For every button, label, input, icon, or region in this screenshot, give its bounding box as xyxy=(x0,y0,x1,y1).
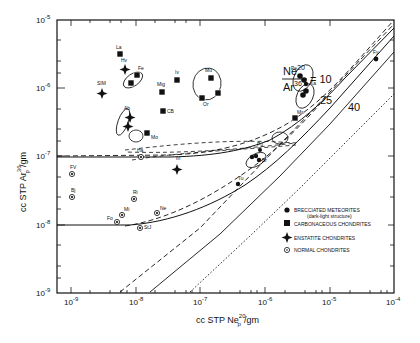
svg-text:Ha: Ha xyxy=(137,147,144,153)
point-Br-2 xyxy=(254,154,258,158)
svg-text:Mi: Mi xyxy=(124,206,129,212)
y-tick-labels: 10-5 10-6 10-7 10-8 10-9 xyxy=(36,14,51,298)
point-Br-3 xyxy=(257,158,261,162)
point-Hv xyxy=(120,64,131,75)
point-SIM xyxy=(97,88,108,99)
svg-text:La: La xyxy=(116,44,122,50)
point-Fe-2 xyxy=(128,80,134,86)
point-Mu-2 xyxy=(215,90,221,96)
point-In xyxy=(172,164,183,175)
svg-text:Tu: Tu xyxy=(238,175,244,181)
point-Mo xyxy=(144,130,150,136)
point-Br-1 xyxy=(250,155,254,159)
point-Fy xyxy=(374,57,379,62)
series-brecciated xyxy=(236,57,379,187)
point-Ms xyxy=(292,115,298,121)
svg-text:10-5: 10-5 xyxy=(36,14,51,25)
legend-carbonaceous-icon xyxy=(284,220,290,226)
point-Mu xyxy=(208,75,214,81)
svg-text:Hv: Hv xyxy=(121,57,128,63)
svg-text:Pu: Pu xyxy=(257,141,263,147)
point-Ka xyxy=(304,82,308,86)
point-Ka-3 xyxy=(303,88,309,94)
y-axis-ticks xyxy=(57,40,394,278)
svg-text:10-7: 10-7 xyxy=(36,150,51,161)
svg-text:25: 25 xyxy=(320,94,332,106)
legend-brecciated-icon xyxy=(284,207,289,212)
svg-text:10-9: 10-9 xyxy=(36,287,51,298)
svg-text:= 10: = 10 xyxy=(310,73,332,85)
series-carbonaceous xyxy=(117,51,298,136)
svg-text:Ri: Ri xyxy=(133,189,138,195)
svg-text:Iv: Iv xyxy=(175,69,179,75)
svg-text:ENSTATITE CHONDRITES: ENSTATITE CHONDRITES xyxy=(294,235,356,241)
x-tick-labels: 10-9 10-8 10-7 10-6 10-5 10-4 xyxy=(64,296,401,307)
svg-text:CARBONACEOUS CHONDRITES: CARBONACEOUS CHONDRITES xyxy=(294,221,372,227)
svg-text:10-9: 10-9 xyxy=(64,296,79,307)
point-Fe-1 xyxy=(134,72,140,78)
svg-text:Ms: Ms xyxy=(297,109,304,115)
svg-text:Ab: Ab xyxy=(124,105,130,111)
point-Iv xyxy=(174,77,180,83)
svg-text:40: 40 xyxy=(348,101,360,113)
point-Ab xyxy=(125,112,136,123)
y-axis-label: cc STP Ar36p/gm xyxy=(16,152,30,212)
svg-text:10-7: 10-7 xyxy=(193,296,208,307)
svg-text:10-8: 10-8 xyxy=(129,296,144,307)
ratio-25-line xyxy=(150,52,394,292)
svg-text:NORMAL CHONDRITES: NORMAL CHONDRITES xyxy=(294,247,350,253)
svg-text:Mo: Mo xyxy=(151,134,158,140)
svg-text:10-8: 10-8 xyxy=(36,219,51,230)
point-Tu xyxy=(236,182,240,186)
point-Pu xyxy=(258,148,262,152)
svg-text:Mig: Mig xyxy=(157,81,165,87)
point-Pe-1 xyxy=(297,73,303,79)
svg-text:Fo: Fo xyxy=(107,215,113,221)
svg-text:10-4: 10-4 xyxy=(386,296,401,307)
svg-text:FV: FV xyxy=(70,164,77,170)
svg-text:10-6: 10-6 xyxy=(258,296,273,307)
series-normal xyxy=(69,154,159,230)
ratio-10-line xyxy=(120,24,394,292)
svg-text:Ne: Ne xyxy=(160,205,167,211)
svg-text:SIM: SIM xyxy=(97,80,106,86)
svg-text:Mu: Mu xyxy=(205,67,212,73)
mixing-curve-lower-solid xyxy=(57,36,394,225)
svg-text:StJ: StJ xyxy=(144,224,152,230)
legend: BRECCIATED METEORITES (dark-light struct… xyxy=(282,207,372,253)
legend-enstatite-icon xyxy=(282,232,293,243)
svg-text:CB: CB xyxy=(167,108,175,114)
svg-text:Fe: Fe xyxy=(138,65,144,71)
x-axis-label: cc STP Ne20p/gm xyxy=(196,313,259,327)
svg-text:(dark-light structure): (dark-light structure) xyxy=(307,213,352,219)
svg-text:10-5: 10-5 xyxy=(322,296,337,307)
point-CB xyxy=(160,108,166,114)
mixing-curve-upper-dashed xyxy=(57,20,394,156)
svg-text:Fy: Fy xyxy=(373,49,379,55)
svg-text:10-6: 10-6 xyxy=(36,82,51,93)
svg-text:Br: Br xyxy=(262,157,267,163)
group-ellipses xyxy=(114,62,318,171)
svg-text:Or: Or xyxy=(203,101,209,107)
svg-text:Bj: Bj xyxy=(71,187,75,193)
scatter-chart: 10-9 10-8 10-7 10-6 10-5 10-4 10-5 10-6 … xyxy=(0,0,420,343)
point-Mig xyxy=(159,89,165,95)
ratio-40-line xyxy=(190,94,394,292)
svg-text:In: In xyxy=(176,155,180,161)
